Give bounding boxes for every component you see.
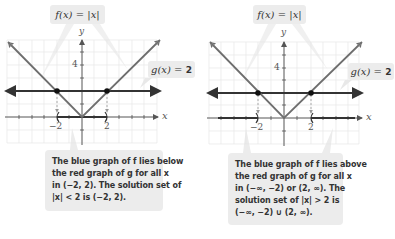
g-name: g(x): [351, 66, 371, 77]
left-graph: [5, 24, 160, 150]
callout-line: in (−2, 2). The solution set of: [52, 180, 157, 192]
right-graph: [207, 24, 362, 153]
callout-line: the red graph of g for all x: [52, 168, 157, 180]
f-name: f(x): [257, 9, 274, 20]
equals: =: [76, 9, 84, 20]
g-name: g(x): [151, 64, 171, 75]
f-function-label: f(x) = |x|: [50, 5, 105, 24]
callout-line: (−∞, −2) ∪ (2, ∞).: [235, 207, 337, 219]
callout-pointer: [70, 128, 78, 150]
intersection-point: [104, 88, 110, 94]
f-label-pointer: [292, 24, 328, 70]
equals: =: [278, 9, 286, 20]
equals: =: [374, 66, 382, 77]
f-name: f(x): [55, 9, 72, 20]
callout-pointer: [322, 128, 333, 153]
g-function-label: g(x) = 2: [348, 63, 394, 80]
f-rhs: |x|: [289, 9, 301, 20]
intersection-point: [54, 88, 60, 94]
callout-line: the red graph of g for all x: [235, 171, 337, 183]
f-function-label: f(x) = |x|: [253, 5, 306, 24]
callout-line: solution set of |x| > 2 is: [235, 195, 337, 207]
callout-line: in (−∞, −2) or (2, ∞). The: [235, 183, 337, 195]
x-tick-label-neg2: −2: [49, 121, 62, 131]
f-graph: [8, 40, 160, 117]
intersection-point: [255, 90, 261, 96]
g-rhs: 2: [186, 65, 192, 75]
explanation-callout: The blue graph of f lies above the red g…: [228, 153, 343, 225]
y-axis-label: y: [281, 27, 286, 37]
equals: =: [174, 64, 182, 75]
x-tick-label-2: 2: [104, 121, 110, 131]
x-tick-label-2: 2: [308, 122, 314, 132]
y-tick-label: 4: [274, 62, 280, 72]
intersection-point: [308, 90, 314, 96]
callout-line: The blue graph of f lies above: [235, 159, 337, 171]
f-label-pointer: [92, 24, 128, 70]
x-axis-label: x: [366, 111, 372, 122]
y-axis-label: y: [79, 26, 84, 36]
x-axis-label: x: [162, 110, 168, 121]
explanation-callout: The blue graph of f lies below the red g…: [45, 150, 163, 211]
g-function-label: g(x) = 2: [148, 61, 195, 78]
f-rhs: |x|: [87, 9, 99, 20]
callout-line: |x| < 2 is (−2, 2).: [52, 192, 157, 204]
x-tick-label-neg2: −2: [250, 122, 263, 132]
callout-line: The blue graph of f lies below: [52, 156, 157, 168]
y-tick-label: 4: [72, 59, 78, 69]
g-rhs: 2: [385, 67, 391, 77]
